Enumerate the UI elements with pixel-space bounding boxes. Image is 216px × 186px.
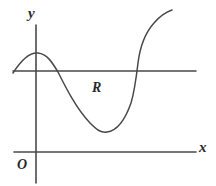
figure-container: y x O R xyxy=(0,0,216,186)
y-axis-label: y xyxy=(28,6,35,21)
x-axis-label: x xyxy=(199,140,207,155)
axes-group xyxy=(14,25,196,183)
region-label-r: R xyxy=(92,81,101,95)
origin-label: O xyxy=(17,158,27,172)
graph-canvas xyxy=(0,0,216,186)
